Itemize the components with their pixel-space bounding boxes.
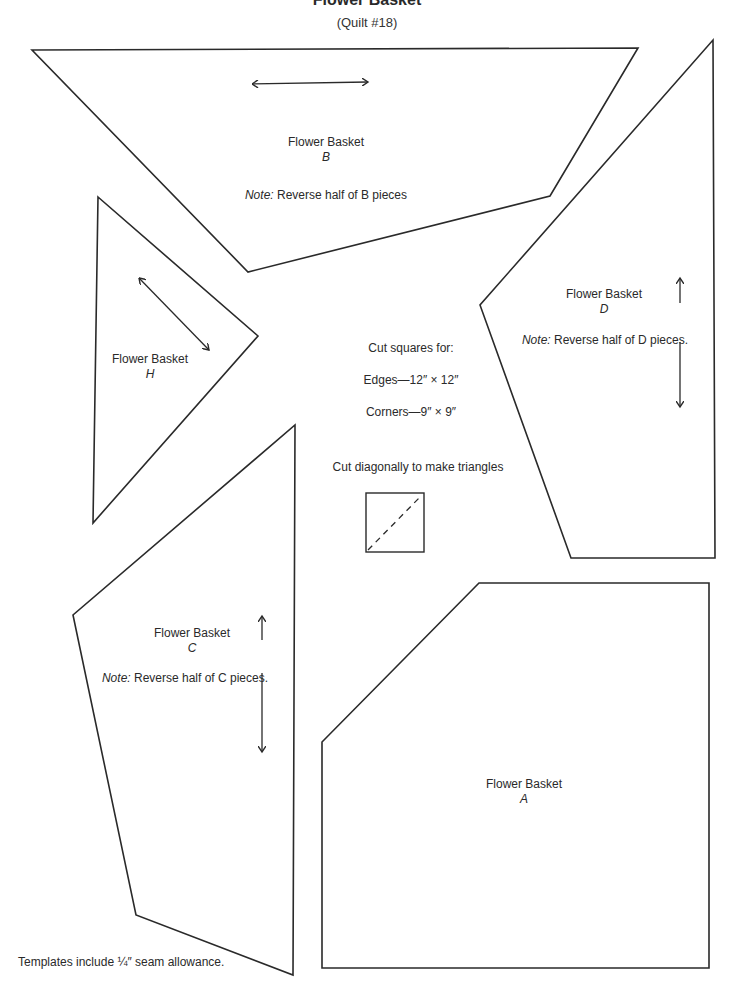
piece-c-name: Flower Basket [154,626,230,640]
piece-b-label: Flower Basket B [288,135,364,165]
diagonal-cut-note: Cut diagonally to make triangles [333,460,504,474]
seam-allowance-note: Templates include ¼″ seam allowance. [18,955,224,969]
piece-d-letter: D [566,302,642,317]
template-piece-a-outline [322,583,709,968]
piece-a-letter: A [486,792,562,807]
piece-c-note: Note: Reverse half of C pieces. [102,671,268,685]
piece-d-note-text: Reverse half of D pieces. [551,333,688,347]
grain-arrow-h-icon [139,278,209,350]
piece-c-note-text: Reverse half of C pieces. [131,671,268,685]
piece-d-note-prefix: Note: [522,333,551,347]
grain-arrow-b-icon [252,82,368,84]
templates-canvas [0,0,734,984]
piece-b-note-text: Reverse half of B pieces [274,188,407,202]
piece-b-note: Note: Reverse half of B pieces [245,188,407,202]
piece-d-name: Flower Basket [566,287,642,301]
piece-c-label: Flower Basket C [154,626,230,656]
square-cut-diagonal-icon [366,493,424,552]
piece-c-note-prefix: Note: [102,671,131,685]
piece-h-letter: H [112,367,188,382]
piece-c-letter: C [154,641,230,656]
piece-h-label: Flower Basket H [112,352,188,382]
piece-b-letter: B [288,150,364,165]
piece-b-name: Flower Basket [288,135,364,149]
corners-dimension: Corners—9″ × 9″ [366,405,456,419]
piece-a-label: Flower Basket A [486,777,562,807]
piece-h-name: Flower Basket [112,352,188,366]
piece-b-note-prefix: Note: [245,188,274,202]
piece-d-note: Note: Reverse half of D pieces. [522,333,688,347]
piece-a-name: Flower Basket [486,777,562,791]
cut-squares-heading: Cut squares for: [368,341,453,355]
edges-dimension: Edges—12″ × 12″ [364,373,459,387]
piece-d-label: Flower Basket D [566,287,642,317]
